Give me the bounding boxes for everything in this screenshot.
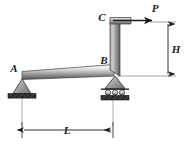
roller-wheel bbox=[119, 90, 124, 95]
horizontal-beam bbox=[22, 65, 114, 80]
pin-support-icon bbox=[8, 79, 36, 98]
roller-triangle bbox=[105, 76, 125, 89]
roller-support-icon bbox=[101, 76, 129, 100]
structural-diagram: A B C P H L bbox=[0, 0, 184, 149]
label-load-p: P bbox=[152, 2, 159, 14]
column-body bbox=[110, 22, 120, 76]
roller-wheel bbox=[105, 90, 110, 95]
pin-base-plate bbox=[8, 94, 36, 99]
vertical-column bbox=[110, 22, 120, 76]
label-dimension-l: L bbox=[63, 124, 71, 136]
roller-wheel bbox=[112, 90, 117, 95]
beam-body bbox=[22, 65, 114, 80]
label-joint-b: B bbox=[99, 54, 107, 66]
label-joint-c: C bbox=[98, 11, 106, 23]
pin-triangle bbox=[13, 79, 31, 94]
label-dimension-h: H bbox=[171, 43, 181, 55]
label-joint-a: A bbox=[9, 62, 17, 74]
roller-base-plate bbox=[101, 95, 129, 100]
diagram-canvas: A B C P H L bbox=[0, 0, 184, 149]
